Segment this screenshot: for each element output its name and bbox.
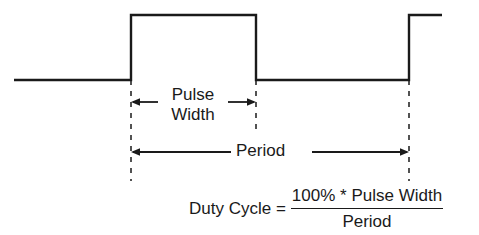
- pulse-width-label: Pulse Width: [160, 86, 226, 123]
- pulse-width-right-arrowhead: [247, 98, 256, 106]
- period-label: Period: [236, 142, 285, 159]
- pulse-timing-diagram: Pulse Width Period Duty Cycle = 100% * P…: [0, 0, 479, 235]
- pulse-width-label-line-2: Width: [160, 106, 226, 123]
- waveform-trace: [14, 15, 442, 80]
- duty-cycle-fraction: 100% * Pulse Width Period: [291, 186, 443, 232]
- duty-cycle-denominator: Period: [291, 209, 443, 232]
- pulse-width-left-arrowhead: [131, 98, 140, 106]
- period-left-arrowhead: [131, 148, 140, 156]
- duty-cycle-numerator: 100% * Pulse Width: [291, 186, 443, 209]
- duty-cycle-formula: Duty Cycle = 100% * Pulse Width Period: [189, 186, 443, 232]
- pulse-width-label-line-1: Pulse: [172, 85, 215, 104]
- duty-cycle-formula-lhs: Duty Cycle =: [189, 199, 286, 219]
- period-right-arrowhead: [400, 148, 409, 156]
